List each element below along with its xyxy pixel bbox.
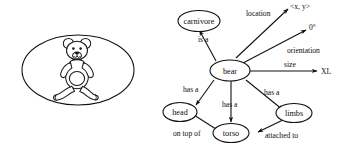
edge-label-location: location <box>246 9 271 18</box>
figure-container: is a location <x, y> orientation 0° size… <box>0 0 347 149</box>
edge-label-has-a-torso: has a <box>222 100 238 109</box>
node-carnivore[interactable]: carnivore <box>178 11 220 32</box>
value-size: XL <box>321 67 331 76</box>
value-location: <x, y> <box>290 2 310 11</box>
edge-label-attached-to: attached to <box>265 131 298 140</box>
node-limbs-label: limbs <box>285 109 303 118</box>
value-orientation: 0° <box>309 23 316 32</box>
edge-label-has-a-limbs: has a <box>264 88 280 97</box>
teddy-bear-panel <box>22 35 134 105</box>
bear-left-eye <box>72 47 75 50</box>
edge-label-has-a-head: has a <box>183 85 199 94</box>
edge-label-orientation: orientation <box>287 46 320 55</box>
node-bear-label: bear <box>223 67 237 76</box>
node-limbs[interactable]: limbs <box>276 104 312 123</box>
node-torso[interactable]: torso <box>213 124 249 143</box>
bear-right-eye <box>79 47 82 50</box>
edge-label-on-top-of: on top of <box>173 129 201 138</box>
node-head[interactable]: head <box>163 103 197 122</box>
node-torso-label: torso <box>223 129 239 138</box>
node-bear[interactable]: bear <box>210 60 250 81</box>
bear-belly <box>69 72 84 86</box>
edge-label-is-a: is a <box>198 35 209 44</box>
edge-label-size: size <box>284 60 296 69</box>
figure-svg: is a location <x, y> orientation 0° size… <box>0 0 347 149</box>
node-head-label: head <box>172 108 187 117</box>
node-carnivore-label: carnivore <box>184 17 215 26</box>
